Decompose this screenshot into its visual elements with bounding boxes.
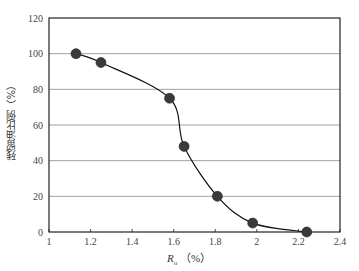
x-tick-label: 1 <box>47 236 52 247</box>
x-tick-label: 1.6 <box>167 236 180 247</box>
y-tick-label: 0 <box>38 227 43 238</box>
data-curve <box>76 54 307 232</box>
y-tick-label: 20 <box>33 191 43 202</box>
x-axis-label: Ro （%） <box>167 249 211 267</box>
x-tick-label: 1.4 <box>126 236 139 247</box>
y-tick-label: 120 <box>28 13 43 24</box>
x-axis-symbol: R <box>167 252 174 264</box>
x-axis-subscript: o <box>174 259 178 267</box>
line-chart: 020406080100120 11.21.41.61.822.22.4 <box>0 0 359 271</box>
y-axis-ticks: 020406080100120 <box>28 13 43 238</box>
data-point-marker <box>248 218 258 228</box>
y-axis-label: 残留油比例（%） <box>4 80 18 160</box>
data-point-marker <box>96 58 106 68</box>
data-point-marker <box>179 141 189 151</box>
x-tick-label: 1.8 <box>209 236 222 247</box>
data-point-marker <box>165 93 175 103</box>
y-tick-label: 100 <box>28 48 43 59</box>
gridlines <box>49 54 340 197</box>
x-tick-label: 2 <box>254 236 259 247</box>
y-tick-label: 60 <box>33 120 43 131</box>
data-point-marker <box>71 49 81 59</box>
y-tick-label: 80 <box>33 84 43 95</box>
x-tick-label: 2.2 <box>292 236 305 247</box>
x-axis-unit: （%） <box>180 252 211 264</box>
y-tick-label: 40 <box>33 155 43 166</box>
data-points <box>71 49 312 237</box>
x-tick-label: 2.4 <box>334 236 347 247</box>
data-point-marker <box>212 191 222 201</box>
x-tick-label: 1.2 <box>84 236 97 247</box>
data-point-marker <box>302 227 312 237</box>
